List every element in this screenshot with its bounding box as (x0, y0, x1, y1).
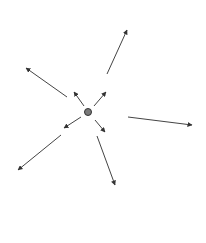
arrow-inner-up-left (74, 92, 84, 106)
arrow-outer-lower-left (18, 135, 61, 170)
arrow-inner-down-right (95, 120, 105, 132)
arrow-outer-bottom (97, 136, 115, 185)
center-source-dot (85, 109, 92, 116)
arrow-outer-top (107, 30, 127, 74)
arrow-outer-right (128, 117, 192, 125)
outer-arrows-group (18, 30, 192, 185)
radial-arrows-diagram (0, 0, 206, 243)
arrow-outer-upper-left (26, 68, 67, 97)
arrow-inner-down-left (64, 117, 81, 128)
diagram-canvas (0, 0, 206, 243)
arrow-inner-up-right (94, 92, 106, 106)
